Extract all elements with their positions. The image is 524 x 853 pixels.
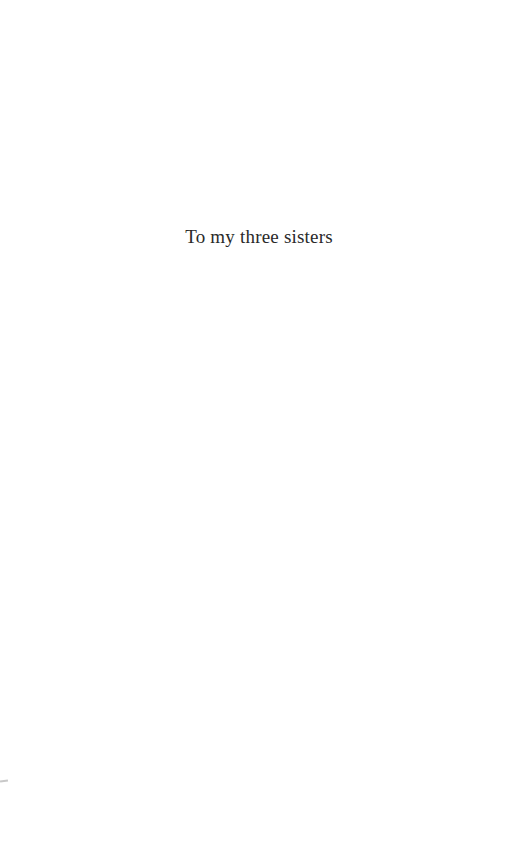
- dedication-text: To my three sisters: [0, 226, 518, 248]
- page-edge-mark: [0, 779, 8, 782]
- book-page: To my three sisters: [0, 0, 524, 853]
